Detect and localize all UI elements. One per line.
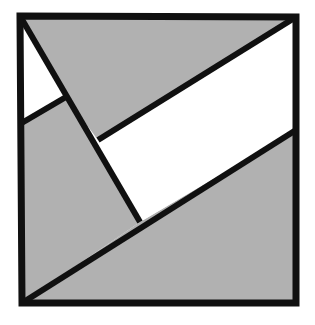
dissection-figure (0, 0, 315, 325)
diagram-canvas (0, 0, 315, 325)
